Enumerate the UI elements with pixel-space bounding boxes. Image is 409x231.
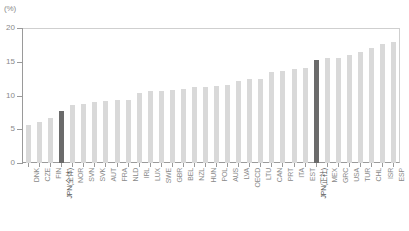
x-axis-label-slot: BEL	[178, 168, 189, 228]
bar-slot	[134, 28, 145, 163]
x-axis-tick	[145, 163, 156, 167]
x-axis-label-slot: ITA	[289, 168, 300, 228]
bar-slot	[233, 28, 244, 163]
x-axis-tick	[222, 163, 233, 167]
bar	[137, 93, 142, 163]
bar	[81, 104, 86, 163]
x-axis-label-slot: JPN(全体)	[56, 168, 67, 228]
x-axis-label-slot: TUR	[355, 168, 366, 228]
bar	[303, 68, 308, 163]
x-axis-label-slot: LVA	[233, 168, 244, 228]
y-axis-tick-label: 15	[6, 57, 15, 66]
bar-slot	[145, 28, 156, 163]
bar-slot	[34, 28, 45, 163]
x-axis-tick	[156, 163, 167, 167]
bar	[48, 118, 53, 163]
bar-slot	[89, 28, 100, 163]
x-axis-ticks	[23, 163, 399, 167]
x-axis-label-slot: EST	[300, 168, 311, 228]
x-axis-label-slot: NOR	[67, 168, 78, 228]
x-axis-label-slot: GRC	[333, 168, 344, 228]
x-axis-tick	[277, 163, 288, 167]
bar	[380, 44, 385, 163]
x-axis-tick	[23, 163, 34, 167]
x-axis-tick	[78, 163, 89, 167]
x-axis-label-slot: NZL	[189, 168, 200, 228]
bar-series	[23, 28, 399, 163]
bar	[159, 91, 164, 163]
bar-slot	[366, 28, 377, 163]
bar-slot	[189, 28, 200, 163]
x-axis-tick	[56, 163, 67, 167]
bar	[225, 85, 230, 163]
x-axis-tick	[311, 163, 322, 167]
bar-slot	[23, 28, 34, 163]
bar	[280, 71, 285, 163]
x-axis-tick	[123, 163, 134, 167]
bar	[126, 100, 131, 163]
x-axis-tick	[34, 163, 45, 167]
bar-slot	[222, 28, 233, 163]
x-axis-label-slot: ESP	[388, 168, 399, 228]
x-axis-tick	[189, 163, 200, 167]
bar-highlighted	[314, 60, 319, 163]
x-axis-label-slot: SWE	[156, 168, 167, 228]
x-axis-tick	[67, 163, 78, 167]
bar	[358, 52, 363, 163]
bar-highlighted	[59, 111, 64, 163]
bar	[236, 81, 241, 163]
x-axis-label-slot: MEX	[322, 168, 333, 228]
x-axis-label-slot: LUX	[145, 168, 156, 228]
bar	[391, 42, 396, 163]
y-axis-unit-label: (%)	[4, 4, 16, 13]
bar-slot	[45, 28, 56, 163]
x-axis-label-slot: IRL	[134, 168, 145, 228]
bar-slot	[67, 28, 78, 163]
bar	[170, 90, 175, 163]
x-axis-labels: DNKCZEFINJPN(全体)NORSVNSVKAUTFRANLDIRLLUX…	[23, 168, 399, 228]
x-axis-label-slot: ISR	[377, 168, 388, 228]
bar	[292, 69, 297, 164]
x-axis-label-slot: FIN	[45, 168, 56, 228]
bar	[336, 58, 341, 163]
x-axis-label-slot: POL	[211, 168, 222, 228]
bar-slot	[388, 28, 399, 163]
x-axis-tick	[45, 163, 56, 167]
bar	[369, 48, 374, 163]
x-axis-label-slot: LTU	[255, 168, 266, 228]
x-axis-label-slot: HUN	[200, 168, 211, 228]
x-axis-tick	[333, 163, 344, 167]
x-axis-tick	[377, 163, 388, 167]
bar	[269, 72, 274, 163]
bar-slot	[355, 28, 366, 163]
x-axis-tick	[300, 163, 311, 167]
bar	[37, 122, 42, 163]
x-axis-tick	[134, 163, 145, 167]
x-axis-label-slot: DNK	[23, 168, 34, 228]
x-axis-tick	[178, 163, 189, 167]
x-axis-label-slot: USA	[344, 168, 355, 228]
bar-slot	[100, 28, 111, 163]
bar-slot	[211, 28, 222, 163]
bar	[258, 79, 263, 163]
bar	[325, 58, 330, 163]
y-axis-tick-label: 20	[6, 23, 15, 32]
bar-slot	[244, 28, 255, 163]
x-axis-tick	[366, 163, 377, 167]
x-axis-tick	[200, 163, 211, 167]
y-axis-tick-label: 0	[11, 158, 15, 167]
x-axis-label-slot: CZE	[34, 168, 45, 228]
x-axis-tick	[388, 163, 399, 167]
bar-slot	[311, 28, 322, 163]
x-axis-label-slot: FRA	[112, 168, 123, 228]
bar	[92, 102, 97, 163]
x-axis-label-slot: SVK	[89, 168, 100, 228]
bar	[203, 87, 208, 163]
bar	[181, 89, 186, 163]
x-axis-tick	[255, 163, 266, 167]
bar	[247, 79, 252, 163]
bar	[115, 100, 120, 163]
x-axis-tick	[233, 163, 244, 167]
bar-slot	[344, 28, 355, 163]
y-axis-tick-label: 10	[6, 91, 15, 100]
